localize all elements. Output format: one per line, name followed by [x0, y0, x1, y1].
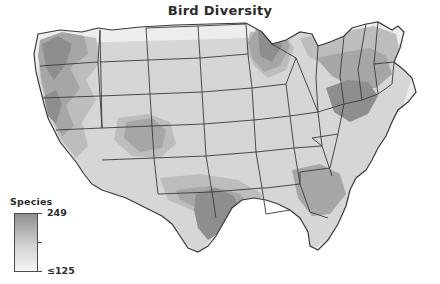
legend-tick-max [38, 213, 42, 214]
legend-label-min: ≤125 [47, 265, 75, 276]
legend-gradient-bar [14, 213, 38, 272]
legend-tick-mid [38, 242, 42, 243]
page-title: Bird Diversity [0, 3, 440, 18]
legend-colorbar: 249 ≤125 [14, 213, 38, 272]
legend-label-max: 249 [47, 207, 67, 218]
bird-diversity-figure: Bird Diversity [0, 0, 440, 284]
legend-title: Species [10, 196, 52, 207]
legend: Species 249 ≤125 [8, 196, 104, 282]
legend-tick-min [38, 271, 42, 272]
